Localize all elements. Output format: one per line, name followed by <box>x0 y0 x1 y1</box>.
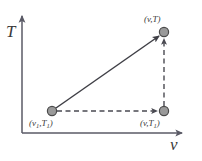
paren-close: ) <box>158 14 161 24</box>
paren-close: ) <box>157 118 160 128</box>
state-point-1-marker <box>47 106 56 115</box>
state-point-mid-label: (v,T1) <box>140 119 160 128</box>
x-axis-label: v <box>170 136 178 153</box>
axes-group <box>22 16 182 133</box>
temperature-symbol: T <box>149 118 154 128</box>
state-point-2-marker <box>159 27 168 36</box>
connectors-group <box>56 36 164 111</box>
process-path-line <box>56 36 159 108</box>
y-axis-label: T <box>6 23 15 40</box>
paren-close: ) <box>50 118 53 128</box>
state-point-mid-marker <box>159 106 168 115</box>
state-point-1-label: (v1,T1) <box>29 119 53 128</box>
temperature-symbol: T <box>42 118 47 128</box>
temperature-subscript: 1 <box>154 122 157 129</box>
volume-subscript: 1 <box>36 122 39 129</box>
temperature-subscript: 1 <box>47 122 50 129</box>
t-v-diagram-figure: T v (v,T) (v1,T1) (v,T1) <box>0 0 202 161</box>
state-point-2-label: (v,T) <box>144 15 161 24</box>
